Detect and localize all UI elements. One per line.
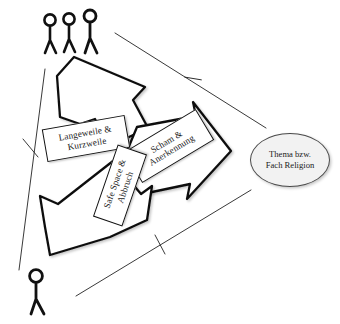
stick-figure-2 [63,13,75,52]
triangle-side-left [19,69,45,270]
single-stick-figure [30,270,44,314]
node-thema-fach-religion: Thema bzw. Fach Religion [250,133,330,187]
three-stick-figures [44,10,97,53]
stick-figure-1 [44,14,56,53]
stick-figure-3 [84,10,97,53]
node-thema-line2: Fach Religion [266,160,314,170]
diagram-canvas: Langeweile & Kurzweile Scham & Anerkennu… [0,0,340,324]
node-thema-line1: Thema bzw. [269,149,311,159]
triangle-tick-bottom [155,235,165,254]
